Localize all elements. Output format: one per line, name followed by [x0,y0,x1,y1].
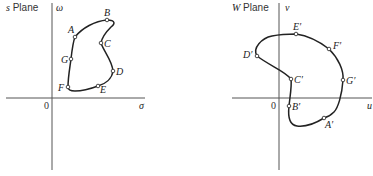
point-f-prime [327,47,331,51]
label-f-prime: F′ [332,40,342,51]
point-b-prime [287,104,291,108]
point-e-prime [294,32,298,36]
s-origin-label: 0 [44,100,49,111]
point-a [73,35,77,39]
point-g-prime [341,78,345,82]
point-f [66,85,70,89]
sigma-axis-label: σ [139,100,145,111]
label-c: C [104,38,111,49]
point-d-prime [255,54,259,58]
point-d [111,69,115,73]
label-a: A [67,24,75,35]
label-g: G [61,54,68,65]
label-g-prime: G′ [346,75,356,86]
point-b [105,18,109,22]
point-c [99,41,103,45]
u-axis-label: u [367,100,372,111]
label-b: B [104,7,110,18]
label-d-prime: D′ [242,49,253,60]
label-f: F [57,82,65,93]
point-g [69,57,73,61]
v-axis-label: v [285,2,290,13]
label-e: E [99,84,106,95]
omega-axis-label: ω [56,2,63,13]
w-plane: W Plane v u 0 A′ B′ C′ D′ E′ F′ G′ [232,2,372,170]
w-origin-label: 0 [271,100,276,111]
label-a-prime: A′ [324,119,334,130]
label-b-prime: B′ [292,101,301,112]
w-plane-title: W Plane [232,2,269,13]
label-d: D [115,66,124,77]
conformal-mapping-diagram: s Plane ω σ 0 A B C D E F G W Plane v u … [0,0,373,176]
s-plane: s Plane ω σ 0 A B C D E F G [6,2,145,170]
label-e-prime: E′ [292,21,302,32]
s-plane-title: s Plane [6,2,39,13]
point-c-prime [289,77,293,81]
label-c-prime: C′ [294,74,304,85]
s-plane-contour [68,20,114,91]
